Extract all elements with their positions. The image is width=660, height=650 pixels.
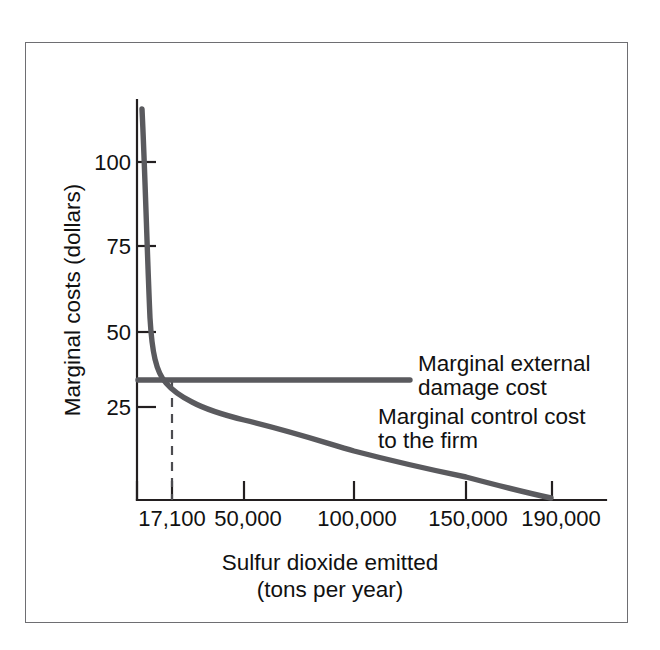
y-tick-label-75: 75: [107, 234, 131, 259]
annotation-external-line1: Marginal external: [418, 351, 591, 376]
y-tick-label-50: 50: [107, 320, 131, 345]
y-tick-label-25: 25: [107, 395, 131, 420]
y-axis-title: Marginal costs (dollars): [60, 184, 85, 417]
x-axis-title-line1: Sulfur dioxide emitted: [222, 550, 438, 575]
y-tick-label-100: 100: [94, 150, 131, 175]
x-tick-labels: 17,100 50,000 100,000 150,000 190,000: [138, 506, 600, 531]
x-tick-label-150000: 150,000: [428, 506, 508, 531]
annotation-marginal-external-damage-cost: Marginal external damage cost: [418, 351, 591, 400]
y-tick-labels: 100 75 50 25: [94, 150, 131, 420]
x-tick-label-190000: 190,000: [521, 506, 601, 531]
x-tick-label-50000: 50,000: [214, 506, 281, 531]
chart-canvas: 100 75 50 25 17,100 50,000 100,000 150,0…: [0, 0, 660, 650]
annotation-control-line1: Marginal control cost: [378, 404, 586, 429]
x-axis-title-line2: (tons per year): [257, 577, 403, 602]
marginal-control-cost-curve: [142, 109, 551, 498]
annotation-external-line2: damage cost: [418, 375, 548, 400]
figure-root: 100 75 50 25 17,100 50,000 100,000 150,0…: [0, 0, 660, 650]
annotation-control-line2: to the firm: [378, 428, 478, 453]
annotation-marginal-control-cost: Marginal control cost to the firm: [378, 404, 586, 453]
x-tick-label-17100: 17,100: [138, 506, 205, 531]
axes-group: [137, 100, 606, 500]
x-tick-label-100000: 100,000: [317, 506, 397, 531]
